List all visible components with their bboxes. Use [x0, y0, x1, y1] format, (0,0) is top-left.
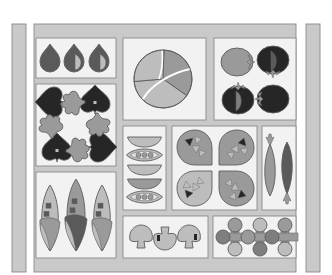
- circle-dot: [265, 230, 279, 244]
- pie-icon: [134, 50, 192, 108]
- circle-dot: [228, 218, 242, 232]
- square-marker: [98, 203, 103, 208]
- square-marker: [44, 211, 49, 216]
- drop-shapes: [40, 44, 109, 72]
- leaf-tile-icon: [219, 171, 254, 206]
- pea-dot: [148, 152, 153, 157]
- gill-mark: [194, 234, 197, 240]
- gill-mark: [157, 235, 160, 241]
- square-marker: [46, 203, 51, 208]
- right-outer-strip: [306, 24, 320, 272]
- circle-cluster-shapes: [216, 218, 298, 256]
- dot-marker: [56, 149, 59, 152]
- circle-dot: [278, 242, 292, 256]
- pie-shape: [134, 50, 192, 108]
- left-outer-strip: [12, 24, 26, 272]
- leaf-shapes: [40, 179, 112, 251]
- quilt-illustration: [0, 0, 332, 275]
- circle-dot: [216, 230, 230, 244]
- circle-dot: [241, 230, 255, 244]
- leaf-tile-icon: [177, 130, 212, 165]
- pea-dot: [148, 194, 153, 199]
- circle-dot: [228, 242, 242, 256]
- circle-dot: [253, 242, 267, 256]
- square-marker: [70, 208, 75, 213]
- square-marker: [96, 211, 101, 216]
- mushroom-shapes: [130, 225, 201, 250]
- leaf-tile-icon: [219, 130, 254, 165]
- square-marker: [72, 199, 77, 204]
- pea-dot: [136, 152, 141, 157]
- pea-dot: [142, 152, 147, 157]
- circle-dot: [278, 218, 292, 232]
- pea-dot: [142, 194, 147, 199]
- circle-dot: [253, 218, 267, 232]
- leaf-tile-icon: [177, 171, 212, 206]
- pea-dot: [136, 194, 141, 199]
- dot-marker: [94, 101, 97, 104]
